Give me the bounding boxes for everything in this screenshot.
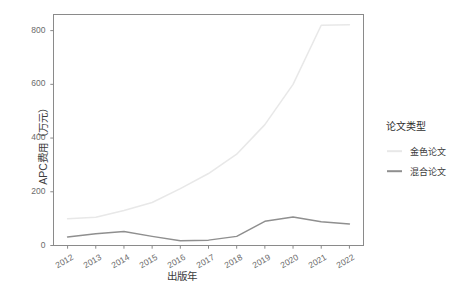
y-axis-tick-label: 600 [20,78,46,88]
legend-item-label: 金色论文 [410,145,446,158]
y-axis-tick-label: 800 [20,25,46,35]
legend: 论文类型 金色论文混合论文 [386,118,462,182]
legend-item-2[interactable]: 混合论文 [386,162,462,180]
y-axis-tick-label: 200 [20,186,46,196]
y-axis-tick-label: 0 [20,240,46,250]
legend-item-1[interactable]: 金色论文 [386,142,462,160]
legend-title: 论文类型 [386,118,462,133]
legend-items: 金色论文混合论文 [386,142,462,180]
y-axis-title: APC费用（万元） [35,103,50,185]
legend-key-swatch [386,144,403,158]
panel-background [54,15,364,246]
chart-container: APC费用（万元） 出版年 0200400600800 201220132014… [0,0,464,288]
legend-key-swatch [386,164,403,178]
y-axis-tick-label: 400 [20,132,46,142]
legend-item-label: 混合论文 [410,165,446,178]
